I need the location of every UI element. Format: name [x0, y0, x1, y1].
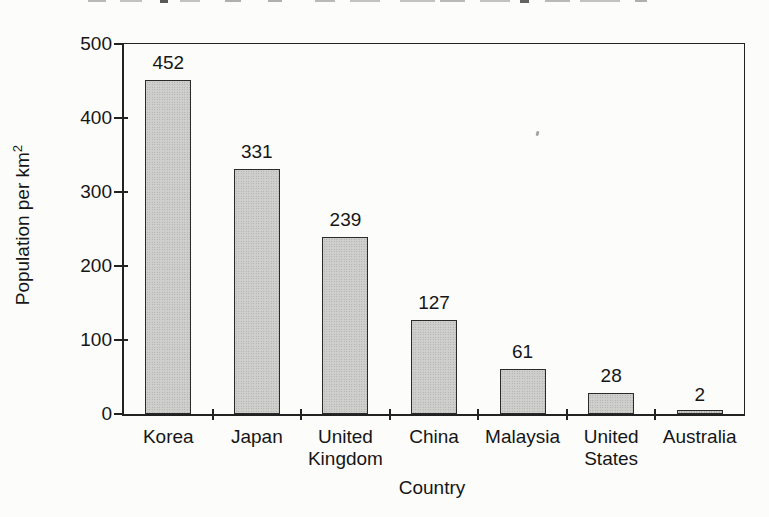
bar-value-japan: 331 [217, 142, 297, 162]
bar-value-korea: 452 [128, 53, 208, 73]
bar-value-australia: 2 [660, 385, 740, 405]
bar-australia [677, 410, 723, 414]
bar-china [411, 320, 457, 414]
y-tick-100 [114, 339, 128, 341]
bar-japan [234, 169, 280, 414]
cropped-caption-fragment [0, 0, 769, 4]
y-tick-400 [114, 117, 128, 119]
category-label-united-states: UnitedStates [561, 426, 662, 470]
y-tick-label-100: 100 [60, 329, 112, 351]
y-tick-label-0: 0 [60, 403, 112, 425]
category-label-china: China [384, 426, 485, 448]
y-tick-200 [114, 265, 128, 267]
x-tick-6 [654, 409, 656, 420]
x-tick-4 [477, 409, 479, 420]
y-tick-label-200: 200 [60, 255, 112, 277]
plot-area: 0100200300400500452Korea331Japan239Unite… [122, 43, 745, 416]
bar-value-united-kingdom: 239 [305, 210, 385, 230]
y-tick-label-500: 500 [60, 33, 112, 55]
bar-value-malaysia: 61 [483, 342, 563, 362]
bar-korea [145, 80, 191, 414]
category-label-malaysia: Malaysia [472, 426, 573, 448]
x-tick-1 [212, 409, 214, 420]
bar-value-china: 127 [394, 293, 474, 313]
bar-united-kingdom [322, 237, 368, 414]
y-tick-500 [114, 43, 124, 45]
x-tick-5 [566, 409, 568, 420]
y-axis-title: Population per km2 [10, 145, 34, 306]
figure: Population per km2 0100200300400500452Ko… [0, 0, 769, 517]
y-tick-label-400: 400 [60, 107, 112, 129]
bar-united-states [588, 393, 634, 414]
category-label-korea: Korea [118, 426, 219, 448]
category-label-australia: Australia [649, 426, 750, 448]
y-tick-label-300: 300 [60, 181, 112, 203]
category-label-japan: Japan [207, 426, 308, 448]
bar-value-united-states: 28 [571, 366, 651, 386]
y-tick-0 [114, 413, 124, 415]
x-axis-title: Country [122, 477, 742, 499]
category-label-united-kingdom: UnitedKingdom [295, 426, 396, 470]
x-tick-3 [389, 409, 391, 420]
x-tick-2 [300, 409, 302, 420]
bar-malaysia [500, 369, 546, 414]
y-tick-300 [114, 191, 128, 193]
